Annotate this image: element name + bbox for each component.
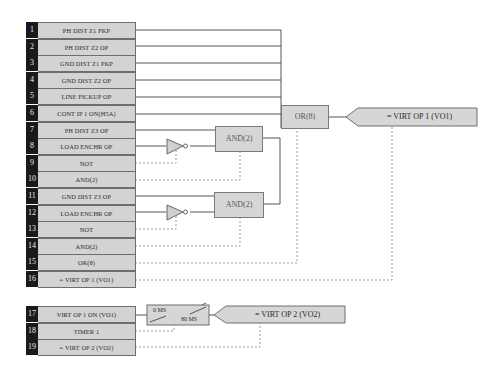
timer-pickup: 0 MS [153,307,166,313]
row-label[interactable]: = VIRT OP 2 (VO2) [38,339,136,356]
row-number: 19 [26,339,38,355]
table-row[interactable]: 18TIMER 1 [26,323,135,339]
vo1-output-label[interactable]: = VIRT OP 1 (VO1) [362,108,477,126]
row-label[interactable]: TIMER 1 [38,323,136,340]
table-row[interactable]: 17VIRT OP 1 ON (VO1) [26,306,135,322]
vo2-output-label[interactable]: = VIRT OP 2 (VO2) [230,306,345,323]
row-number: 17 [26,306,38,322]
timer-block[interactable]: 0 MS 80 MS [147,305,209,325]
row-label[interactable]: VIRT OP 1 ON (VO1) [38,306,136,323]
table-row[interactable]: 19= VIRT OP 2 (VO2) [26,339,135,355]
row-number: 18 [26,323,38,339]
flexlogic-diagram: 1PH DIST Z1 PKP 2PH DIST Z2 OP 3GND DIST… [0,0,501,375]
timer-dropout: 80 MS [181,316,197,322]
